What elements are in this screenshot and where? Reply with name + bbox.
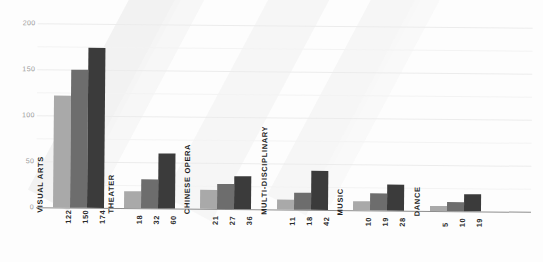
category-labels-layer: VISUAL ARTSTHEATERCHINESE OPERAMULTI-DIS…: [2, 0, 543, 5]
bar: [158, 153, 176, 208]
bar: [294, 193, 311, 210]
bar: [217, 184, 234, 209]
y-axis-tick-label: 200: [2, 19, 36, 26]
bar-value-label: 122: [65, 209, 73, 223]
gridline: [38, 23, 533, 28]
bar: [387, 185, 404, 211]
bar-value-label: 19: [382, 217, 389, 226]
bar-value-label: 27: [229, 216, 236, 225]
bar: [141, 179, 158, 209]
y-axis-tick-label: 100: [1, 111, 35, 118]
bar: [353, 201, 370, 210]
gridline-minor: [37, 92, 532, 97]
bar-value-label: 10: [365, 217, 372, 226]
bar-value-label: 18: [306, 216, 313, 225]
bar-value-label: 32: [153, 215, 160, 224]
bar: [447, 202, 464, 211]
gridline: [37, 115, 532, 120]
gridlines: [2, 0, 543, 5]
bar-value-label: 11: [289, 217, 296, 226]
bar: [87, 48, 105, 208]
bar-value-label: 150: [82, 210, 90, 224]
category-label: DANCE: [414, 186, 422, 216]
gridline: [36, 161, 531, 166]
bar-value-label: 28: [399, 217, 406, 226]
bar-value-label: 36: [246, 216, 253, 225]
gridline-minor: [37, 46, 532, 51]
bar: [430, 206, 447, 211]
gridline: [37, 69, 532, 74]
bar: [370, 193, 387, 211]
bar: [277, 199, 294, 209]
category-label: VISUAL ARTS: [37, 156, 45, 213]
bar-value-label: 42: [323, 217, 330, 226]
bar: [200, 190, 217, 209]
y-axis-tick-label: 0: [0, 203, 34, 210]
bar: [234, 176, 251, 209]
bar: [70, 70, 88, 208]
bar-chart: 050100150200 VISUAL ARTSTHEATERCHINESE O…: [0, 0, 543, 262]
bar: [124, 192, 141, 209]
y-axis-tick-labels: 050100150200: [2, 0, 543, 5]
bar-value-label: 174: [99, 210, 107, 224]
bar: [53, 95, 71, 207]
category-label: CHINESE OPERA: [184, 144, 192, 214]
y-axis-tick-label: 50: [0, 157, 34, 164]
gridline-minor: [37, 138, 532, 143]
y-axis-tick-label: 150: [1, 65, 35, 72]
bars-layer: [2, 0, 543, 5]
category-label: MULTI-DISCIPLINARY: [261, 126, 269, 215]
bar: [311, 171, 328, 210]
category-label: THEATER: [108, 174, 116, 213]
bar-value-label: 18: [136, 215, 143, 224]
bar-value-label: 5: [442, 222, 449, 227]
bar-value-label: 10: [459, 218, 466, 227]
bar-value-label: 60: [170, 215, 177, 224]
bar-value-label: 19: [476, 218, 483, 227]
bar: [464, 194, 481, 212]
category-label: MUSIC: [337, 188, 345, 215]
value-labels-layer: 12215017418326021273611184210192851019: [2, 0, 543, 5]
bar-value-label: 21: [212, 216, 219, 225]
